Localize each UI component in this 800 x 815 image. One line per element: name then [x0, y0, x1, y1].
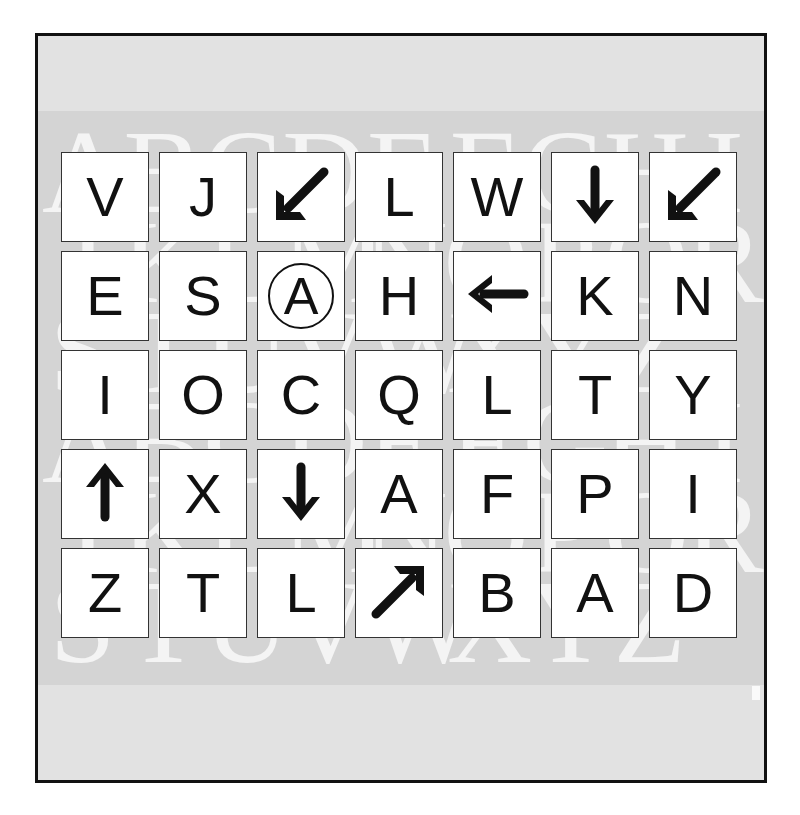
- grid-cell-r3-c7[interactable]: Y: [649, 350, 737, 440]
- circled-letter: A: [268, 263, 334, 329]
- grid-cell-r3-c1[interactable]: I: [61, 350, 149, 440]
- stimulus-panel: ABCDEFGHIJKLMNOPQRSTUVWXYZABCDEFGHIJKLMN…: [35, 33, 767, 783]
- cell-letter: O: [181, 367, 225, 423]
- cell-letter: I: [97, 367, 113, 423]
- grid-cell-r4-c4[interactable]: A: [355, 449, 443, 539]
- cell-letter: X: [184, 466, 221, 522]
- cell-letter: S: [184, 268, 221, 324]
- cell-letter: N: [673, 268, 713, 324]
- cell-letter: P: [576, 466, 613, 522]
- top-caption: [320, 0, 480, 3]
- grid-cell-r4-c3[interactable]: [257, 449, 345, 539]
- cell-letter: A: [576, 565, 613, 621]
- cell-letter: A: [380, 466, 417, 522]
- letter-arrow-grid: VJLWESAHKNIOCQLTYXAFPIZTLBAD: [61, 152, 737, 638]
- grid-cell-r5-c4[interactable]: [355, 548, 443, 638]
- grid-cell-r5-c1[interactable]: Z: [61, 548, 149, 638]
- cell-letter: E: [86, 268, 123, 324]
- grid-cell-r5-c7[interactable]: D: [649, 548, 737, 638]
- grid-cell-r1-c7[interactable]: [649, 152, 737, 242]
- arrow-down-left-icon: [658, 160, 728, 234]
- arrow-up-right-icon: [364, 556, 434, 630]
- arrow-down-icon: [560, 160, 630, 234]
- grid-cell-r1-c5[interactable]: W: [453, 152, 541, 242]
- grid-cell-r1-c6[interactable]: [551, 152, 639, 242]
- cell-letter: D: [673, 565, 713, 621]
- grid-cell-r4-c5[interactable]: F: [453, 449, 541, 539]
- grid-cell-r5-c5[interactable]: B: [453, 548, 541, 638]
- cell-letter: L: [285, 565, 316, 621]
- grid-cell-r1-c1[interactable]: V: [61, 152, 149, 242]
- grid-cell-r4-c7[interactable]: I: [649, 449, 737, 539]
- grid-cell-r2-c5[interactable]: [453, 251, 541, 341]
- cell-letter: L: [383, 169, 414, 225]
- cell-letter: J: [189, 169, 217, 225]
- cell-letter: B: [478, 565, 515, 621]
- grid-cell-r2-c2[interactable]: S: [159, 251, 247, 341]
- arrow-down-left-icon: [266, 160, 336, 234]
- cell-letter: L: [481, 367, 512, 423]
- edge-mark: [752, 686, 760, 700]
- grid-cell-r3-c2[interactable]: O: [159, 350, 247, 440]
- grid-cell-r3-c6[interactable]: T: [551, 350, 639, 440]
- arrow-down-icon: [266, 457, 336, 531]
- grid-cell-r3-c4[interactable]: Q: [355, 350, 443, 440]
- cell-letter: T: [186, 565, 220, 621]
- grid-cell-r2-c3[interactable]: A: [257, 251, 345, 341]
- cell-letter: H: [379, 268, 419, 324]
- grid-cell-r3-c3[interactable]: C: [257, 350, 345, 440]
- grid-cell-r1-c4[interactable]: L: [355, 152, 443, 242]
- grid-cell-r3-c5[interactable]: L: [453, 350, 541, 440]
- grid-cell-r2-c7[interactable]: N: [649, 251, 737, 341]
- cell-letter: I: [685, 466, 701, 522]
- grid-cell-r4-c1[interactable]: [61, 449, 149, 539]
- grid-cell-r4-c2[interactable]: X: [159, 449, 247, 539]
- cell-letter: Q: [377, 367, 421, 423]
- cell-letter: C: [281, 367, 321, 423]
- cell-letter: W: [471, 169, 524, 225]
- grid-cell-r5-c3[interactable]: L: [257, 548, 345, 638]
- arrow-up-icon: [70, 457, 140, 531]
- grid-cell-r2-c4[interactable]: H: [355, 251, 443, 341]
- grid-cell-r2-c6[interactable]: K: [551, 251, 639, 341]
- grid-cell-r5-c2[interactable]: T: [159, 548, 247, 638]
- cell-letter: V: [86, 169, 123, 225]
- cell-letter: F: [480, 466, 514, 522]
- cell-letter: Z: [88, 565, 122, 621]
- grid-cell-r2-c1[interactable]: E: [61, 251, 149, 341]
- arrow-left-icon: [462, 259, 532, 333]
- cell-letter: Y: [674, 367, 711, 423]
- grid-cell-r1-c3[interactable]: [257, 152, 345, 242]
- cell-letter: T: [578, 367, 612, 423]
- grid-cell-r5-c6[interactable]: A: [551, 548, 639, 638]
- cell-letter: K: [576, 268, 613, 324]
- grid-cell-r1-c2[interactable]: J: [159, 152, 247, 242]
- grid-cell-r4-c6[interactable]: P: [551, 449, 639, 539]
